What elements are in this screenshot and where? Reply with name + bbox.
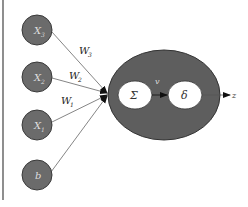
svg-text:1: 1 <box>41 126 45 133</box>
weight-label-w3: W 3 <box>79 45 92 58</box>
weight-label-w2: W 2 <box>69 70 82 83</box>
svg-text:3: 3 <box>41 31 45 38</box>
edge-x3 <box>52 32 107 93</box>
sum-symbol: Σ <box>129 89 138 102</box>
input-label-bias: b <box>35 170 41 181</box>
edge-b <box>51 96 107 172</box>
svg-text:3: 3 <box>88 51 92 58</box>
activation-symbol: δ <box>181 89 188 102</box>
weight-label-w1: W 1 <box>61 95 74 108</box>
intermediate-label-v: v <box>155 77 160 86</box>
input-node-bias: b <box>22 160 52 190</box>
svg-text:2: 2 <box>40 78 45 85</box>
svg-text:2: 2 <box>77 76 82 83</box>
input-node-x1: X 1 <box>22 110 52 140</box>
perceptron-diagram: X 3 X 2 X 1 b W 3 W 2 W 1 Σ δ v z <box>0 0 248 207</box>
svg-text:1: 1 <box>70 101 74 108</box>
input-node-x3: X 3 <box>22 15 52 45</box>
output-label-z: z <box>231 91 237 100</box>
input-node-x2: X 2 <box>22 62 52 92</box>
